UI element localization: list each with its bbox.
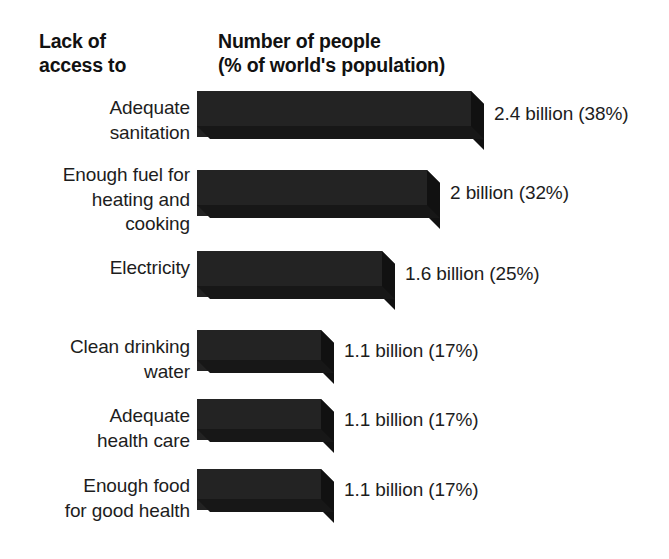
bar-value-label: 2 billion (32%) <box>450 181 569 205</box>
bar-shape <box>197 399 334 453</box>
bar-chart: Lack of access to Number of people (% of… <box>0 0 669 559</box>
bar-value-label: 1.6 billion (25%) <box>405 262 540 286</box>
plot-area: Adequate sanitation2.4 billion (38%)Enou… <box>0 0 669 559</box>
bar-shape <box>197 469 334 523</box>
bar-value-label: 1.1 billion (17%) <box>344 478 479 502</box>
bar-category-label: Enough fuel for heating and cooking <box>0 163 190 237</box>
bar-category-label: Enough food for good health <box>0 474 190 523</box>
bar-category-label: Electricity <box>0 256 190 281</box>
bar-category-label: Adequate health care <box>0 404 190 453</box>
bar-value-label: 2.4 billion (38%) <box>494 102 629 126</box>
bar-category-label: Adequate sanitation <box>0 96 190 145</box>
bar-category-label: Clean drinking water <box>0 335 190 384</box>
bar-value-label: 1.1 billion (17%) <box>344 339 479 363</box>
bar-shape <box>197 251 395 310</box>
bar-shape <box>197 170 440 229</box>
bar-shape <box>197 91 484 150</box>
bar-shape <box>197 330 334 384</box>
bar-value-label: 1.1 billion (17%) <box>344 408 479 432</box>
